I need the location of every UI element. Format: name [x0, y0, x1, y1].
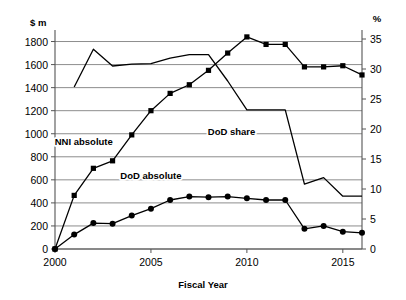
data-point-marker: [340, 63, 345, 68]
data-point-marker: [359, 230, 365, 236]
chart-container: 020040060080010001200140016001800 051015…: [0, 0, 406, 300]
line-chart: 020040060080010001200140016001800 051015…: [0, 0, 406, 300]
left-axis-tick-label: 1400: [25, 82, 49, 94]
data-point-marker: [340, 229, 346, 235]
right-axis-tick-label: 30: [370, 63, 382, 75]
chart-background: [0, 0, 406, 300]
data-point-marker: [167, 197, 173, 203]
x-axis-tick-label: 2005: [139, 256, 163, 268]
x-axis-tick-label: 2010: [235, 256, 259, 268]
right-axis-unit-label: %: [373, 13, 382, 24]
dod-share-label: DoD share: [208, 126, 256, 137]
data-point-marker: [225, 50, 230, 55]
data-point-marker: [72, 193, 77, 198]
x-axis-tick-label: 2015: [331, 256, 355, 268]
data-point-marker: [263, 42, 268, 47]
right-axis-tick-label: 0: [370, 243, 376, 255]
data-point-marker: [129, 132, 134, 137]
right-axis-tick-label: 25: [370, 93, 382, 105]
dod-absolute-label: DoD absolute: [120, 170, 181, 181]
data-point-marker: [187, 82, 192, 87]
data-point-marker: [186, 194, 192, 200]
data-point-marker: [301, 226, 307, 232]
left-axis-tick-label: 200: [30, 220, 48, 232]
right-axis-tick-label: 10: [370, 183, 382, 195]
right-axis-tick-label: 35: [370, 33, 382, 45]
left-axis-tick-label: 1600: [25, 59, 49, 71]
data-point-marker: [359, 72, 364, 77]
data-point-marker: [225, 194, 231, 200]
data-point-marker: [129, 213, 135, 219]
data-point-marker: [52, 246, 58, 252]
left-axis-tick-label: 0: [42, 243, 48, 255]
data-point-marker: [71, 232, 77, 238]
data-point-marker: [90, 220, 96, 226]
data-point-marker: [244, 34, 249, 39]
data-point-marker: [168, 91, 173, 96]
left-axis-tick-label: 800: [30, 151, 48, 163]
data-point-marker: [282, 197, 288, 203]
data-point-marker: [206, 68, 211, 73]
right-axis-tick-label: 5: [370, 213, 376, 225]
data-point-marker: [148, 206, 154, 212]
right-axis-tick-label: 15: [370, 153, 382, 165]
data-point-marker: [110, 221, 116, 227]
x-axis-tick-label: 2000: [43, 256, 67, 268]
data-point-marker: [110, 158, 115, 163]
data-point-marker: [302, 64, 307, 69]
data-point-marker: [283, 42, 288, 47]
left-axis-tick-label: 1000: [25, 128, 49, 140]
data-point-marker: [244, 195, 250, 201]
data-point-marker: [91, 166, 96, 171]
left-axis-unit-label: $ m: [30, 17, 46, 28]
right-axis-tick-label: 20: [370, 123, 382, 135]
left-axis-tick-label: 1200: [25, 105, 49, 117]
left-axis-tick-label: 600: [30, 174, 48, 186]
data-point-marker: [263, 197, 269, 203]
data-point-marker: [148, 108, 153, 113]
data-point-marker: [321, 64, 326, 69]
x-axis-title: Fiscal Year: [178, 279, 228, 290]
left-axis-tick-label: 1800: [25, 36, 49, 48]
data-point-marker: [321, 223, 327, 229]
left-axis-tick-label: 400: [30, 197, 48, 209]
nni-absolute-label: NNI absolute: [55, 136, 113, 147]
data-point-marker: [206, 194, 212, 200]
